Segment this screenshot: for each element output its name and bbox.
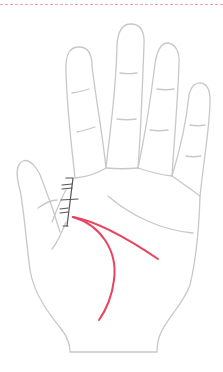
hand-diagram — [0, 0, 223, 372]
heart-line — [108, 196, 193, 233]
index-crease-2 — [77, 127, 95, 132]
palm-upper-crease — [52, 190, 66, 222]
ring-finger-outline — [138, 43, 179, 176]
life-line-highlight — [73, 217, 115, 320]
ring-crease-1 — [157, 89, 174, 90]
index-crease-1 — [72, 89, 89, 93]
wrist-outline — [62, 330, 160, 352]
middle-crease-2 — [117, 119, 136, 120]
middle-crease-1 — [120, 73, 137, 74]
ring-crease-2 — [150, 130, 168, 131]
middle-finger-outline — [106, 24, 144, 168]
palm-right-edge — [160, 196, 200, 335]
thumb-base-crease — [38, 200, 57, 208]
pinky-crease-2 — [186, 156, 201, 157]
palm-finger-base — [75, 168, 200, 196]
index-finger-outline — [66, 47, 106, 178]
cross-hatch-marks — [60, 178, 78, 226]
pinky-crease-1 — [190, 125, 205, 126]
